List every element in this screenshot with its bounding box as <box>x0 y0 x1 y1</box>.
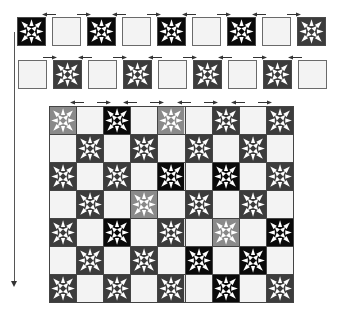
star-block <box>53 60 82 89</box>
plain-block <box>186 163 212 190</box>
star-block <box>263 60 292 89</box>
plain-block <box>104 191 130 218</box>
plain-block <box>131 107 157 134</box>
plain-block <box>77 219 103 246</box>
star-block <box>158 275 184 302</box>
star-block <box>240 247 266 274</box>
arrow-left-icon <box>218 55 232 60</box>
plain-block <box>213 191 239 218</box>
star-block <box>131 191 157 218</box>
plain-block <box>240 219 266 246</box>
arrow-left-icon <box>231 100 245 105</box>
plain-block <box>131 163 157 190</box>
arrow-right-icon <box>217 12 231 17</box>
star-block <box>77 247 103 274</box>
assembled-quilt-grid <box>49 106 294 303</box>
arrow-left-icon <box>123 100 137 105</box>
plain-block <box>240 163 266 190</box>
plain-block <box>240 107 266 134</box>
arrow-right-icon <box>43 55 57 60</box>
star-block <box>158 163 184 190</box>
plain-block <box>228 60 257 89</box>
plain-block <box>50 135 76 162</box>
arrow-right-icon <box>253 55 267 60</box>
star-block <box>193 60 222 89</box>
star-block <box>158 219 184 246</box>
star-block <box>157 17 186 46</box>
plain-block <box>77 275 103 302</box>
star-block <box>50 275 76 302</box>
plain-block <box>192 17 221 46</box>
star-block <box>186 191 212 218</box>
arrow-left-icon <box>148 55 162 60</box>
arrow-left-icon <box>70 100 84 105</box>
arrow-left-icon <box>177 100 191 105</box>
star-block <box>240 135 266 162</box>
plain-block <box>262 17 291 46</box>
star-block <box>297 17 326 46</box>
star-block <box>267 275 293 302</box>
star-block <box>77 135 103 162</box>
plain-block <box>298 60 327 89</box>
star-block <box>104 107 130 134</box>
arrow-right-icon <box>183 55 197 60</box>
plain-block <box>158 247 184 274</box>
star-block <box>131 135 157 162</box>
arrow-right-icon <box>77 12 91 17</box>
plain-block <box>18 60 47 89</box>
plain-block <box>267 191 293 218</box>
arrow-right-icon <box>258 100 272 105</box>
plain-block <box>186 275 212 302</box>
plain-block <box>77 107 103 134</box>
plain-block <box>213 247 239 274</box>
arrow-right-icon <box>97 100 111 105</box>
arrow-right-icon <box>147 12 161 17</box>
star-block <box>50 163 76 190</box>
arrow-left-icon <box>42 12 56 17</box>
star-block <box>213 219 239 246</box>
star-block <box>267 107 293 134</box>
plain-block <box>186 219 212 246</box>
plain-block <box>131 219 157 246</box>
plain-block <box>186 107 212 134</box>
plain-block <box>88 60 117 89</box>
star-block <box>87 17 116 46</box>
star-block <box>104 163 130 190</box>
arrow-left-icon <box>182 12 196 17</box>
plain-block <box>50 247 76 274</box>
star-block <box>17 17 46 46</box>
plain-block <box>158 135 184 162</box>
star-block <box>50 219 76 246</box>
star-block <box>77 191 103 218</box>
plain-block <box>77 163 103 190</box>
arrow-left-icon <box>252 12 266 17</box>
plain-block <box>267 135 293 162</box>
arrow-right-icon <box>204 100 218 105</box>
arrow-left-icon <box>112 12 126 17</box>
star-block <box>158 107 184 134</box>
plain-block <box>158 60 187 89</box>
plain-block <box>131 275 157 302</box>
star-block <box>123 60 152 89</box>
star-block <box>104 219 130 246</box>
star-block <box>213 275 239 302</box>
plain-block <box>213 135 239 162</box>
star-block <box>227 17 256 46</box>
arrow-down-icon <box>11 281 17 287</box>
plain-block <box>104 135 130 162</box>
arrow-right-icon <box>150 100 164 105</box>
plain-block <box>50 191 76 218</box>
star-block <box>213 107 239 134</box>
star-block <box>186 247 212 274</box>
plain-block <box>267 247 293 274</box>
plain-block <box>158 191 184 218</box>
star-block <box>104 275 130 302</box>
star-block <box>240 191 266 218</box>
vertical-arrow-line <box>14 32 15 284</box>
star-block <box>267 219 293 246</box>
arrow-left-icon <box>78 55 92 60</box>
plain-block <box>122 17 151 46</box>
plain-block <box>104 247 130 274</box>
plain-block <box>240 275 266 302</box>
star-block <box>213 163 239 190</box>
